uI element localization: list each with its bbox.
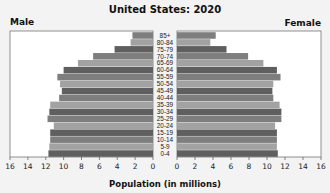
female-bar-55-59 xyxy=(177,74,281,81)
female-tick-label-8: 8 xyxy=(247,162,252,171)
female-tick-label-12: 12 xyxy=(280,162,290,171)
female-bar-60-64 xyxy=(177,67,277,74)
male-bar-85+ xyxy=(132,32,153,39)
age-label-85+: 85+ xyxy=(160,32,171,39)
female-bar-65-69 xyxy=(177,60,263,67)
male-tick-label-12: 12 xyxy=(41,162,51,171)
male-tick-label-16: 16 xyxy=(5,162,15,171)
male-tick-label-8: 8 xyxy=(79,162,84,171)
female-tick-label-16: 16 xyxy=(316,162,326,171)
female-bar-15-19 xyxy=(177,129,277,136)
male-bar-45-49 xyxy=(62,88,153,95)
age-label-75-79: 75-79 xyxy=(157,46,174,53)
male-bar-10-14 xyxy=(50,136,153,143)
male-bar-0-4 xyxy=(48,150,153,157)
male-bar-40-44 xyxy=(59,95,153,102)
male-tick-label-2: 2 xyxy=(133,162,138,171)
male-bar-15-19 xyxy=(50,129,153,136)
male-tick-label-10: 10 xyxy=(59,162,69,171)
female-bar-10-14 xyxy=(177,136,277,143)
female-tick-label-0: 0 xyxy=(175,162,180,171)
chart-title: United States: 2020 xyxy=(109,4,221,15)
female-bar-75-79 xyxy=(177,46,227,53)
male-bar-5-9 xyxy=(49,143,153,150)
male-bar-30-34 xyxy=(49,109,153,116)
male-tick-label-0: 0 xyxy=(151,162,156,171)
age-label-80-84: 80-84 xyxy=(157,39,174,46)
female-bar-5-9 xyxy=(177,143,277,150)
female-tick-label-14: 14 xyxy=(298,162,308,171)
age-label-15-19: 15-19 xyxy=(157,129,174,136)
age-label-5-9: 5-9 xyxy=(160,143,170,150)
population-pyramid-chart: United States: 2020 Male Female 0-45-910… xyxy=(0,0,330,193)
age-label-0-4: 0-4 xyxy=(160,150,170,157)
male-bar-60-64 xyxy=(64,67,153,74)
male-bar-65-69 xyxy=(78,60,153,67)
female-bar-80-84 xyxy=(177,39,210,46)
female-tick-label-6: 6 xyxy=(229,162,234,171)
female-bar-0-4 xyxy=(177,150,278,157)
male-tick-label-6: 6 xyxy=(97,162,102,171)
male-bar-55-59 xyxy=(57,74,153,81)
male-label: Male xyxy=(10,17,34,27)
age-label-45-49: 45-49 xyxy=(157,87,174,94)
age-label-40-44: 40-44 xyxy=(157,94,174,101)
male-bar-75-79 xyxy=(115,46,153,53)
age-label-35-39: 35-39 xyxy=(157,101,174,108)
male-bar-50-54 xyxy=(60,81,153,88)
female-tick-label-2: 2 xyxy=(193,162,198,171)
age-label-20-24: 20-24 xyxy=(157,122,174,129)
male-bar-80-84 xyxy=(131,39,153,46)
male-bar-35-39 xyxy=(50,102,153,109)
female-bar-25-29 xyxy=(177,116,281,123)
female-label: Female xyxy=(284,18,321,28)
male-bar-20-24 xyxy=(54,122,153,129)
age-label-50-54: 50-54 xyxy=(157,80,174,87)
female-bar-35-39 xyxy=(177,102,280,109)
ticks-group: 00224466881010121214141616 xyxy=(5,157,326,171)
age-label-30-34: 30-34 xyxy=(157,108,174,115)
x-axis-title: Population (in millions) xyxy=(109,179,221,189)
age-label-65-69: 65-69 xyxy=(157,59,174,66)
female-bar-50-54 xyxy=(177,81,273,88)
age-label-70-74: 70-74 xyxy=(157,53,174,60)
age-label-60-64: 60-64 xyxy=(157,66,174,73)
age-label-25-29: 25-29 xyxy=(157,115,174,122)
male-bar-25-29 xyxy=(48,116,153,123)
female-bar-40-44 xyxy=(177,95,273,102)
female-bar-45-49 xyxy=(177,88,272,95)
female-bar-30-34 xyxy=(177,109,281,116)
female-bar-20-24 xyxy=(177,122,275,129)
female-bar-85+ xyxy=(177,32,216,39)
female-tick-label-10: 10 xyxy=(262,162,272,171)
age-labels-group: 0-45-910-1415-1920-2425-2930-3435-3940-4… xyxy=(157,32,174,157)
female-tick-label-4: 4 xyxy=(211,162,216,171)
male-tick-label-14: 14 xyxy=(23,162,33,171)
male-bar-70-74 xyxy=(93,53,153,60)
age-label-10-14: 10-14 xyxy=(157,136,174,143)
male-tick-label-4: 4 xyxy=(115,162,120,171)
age-label-55-59: 55-59 xyxy=(157,73,174,80)
female-bar-70-74 xyxy=(177,53,248,60)
